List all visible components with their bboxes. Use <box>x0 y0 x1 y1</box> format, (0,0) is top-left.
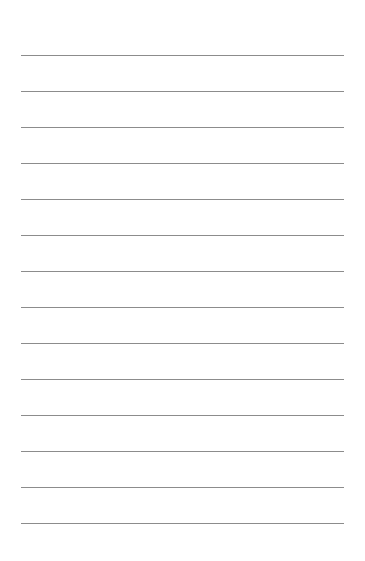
ruled-line <box>21 415 344 416</box>
ruled-line <box>21 487 344 488</box>
ruled-line <box>21 163 344 164</box>
lined-paper-page <box>0 0 365 561</box>
ruled-line <box>21 379 344 380</box>
ruled-line <box>21 451 344 452</box>
ruled-line <box>21 127 344 128</box>
ruled-line <box>21 91 344 92</box>
ruled-line <box>21 523 344 524</box>
ruled-line <box>21 343 344 344</box>
ruled-line <box>21 55 344 56</box>
ruled-line <box>21 199 344 200</box>
ruled-line <box>21 307 344 308</box>
ruled-line <box>21 235 344 236</box>
ruled-line <box>21 271 344 272</box>
